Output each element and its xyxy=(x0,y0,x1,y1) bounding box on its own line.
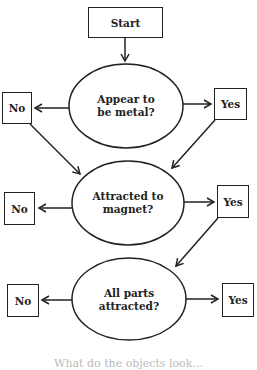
decision-1-yes-box: Yes xyxy=(214,88,247,120)
decision-3-no-box: No xyxy=(7,284,39,317)
decision-1-no-box: No xyxy=(2,92,32,124)
decision-3-question: All parts attracted? xyxy=(79,287,179,313)
start-box: Start xyxy=(88,7,163,38)
decision-2-no-box: No xyxy=(4,192,35,225)
decision-3-yes-box: Yes xyxy=(222,283,254,317)
decision-2-question: Attracted to magnet? xyxy=(78,190,178,216)
caption-text: What do the objects look... xyxy=(0,357,257,370)
start-label: Start xyxy=(111,17,141,29)
decision-2-yes-box: Yes xyxy=(217,185,249,218)
decision-1-question: Appear to be metal? xyxy=(76,93,176,119)
